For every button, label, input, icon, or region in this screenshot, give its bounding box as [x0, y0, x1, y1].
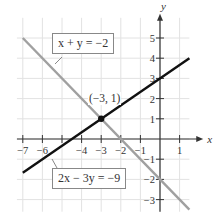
x-tick-label: −3 [96, 145, 107, 156]
y-tick-label: 4 [150, 53, 156, 64]
equation-2-pointer [52, 159, 57, 168]
x-tick-label: −2 [115, 145, 126, 156]
y-tick-label: −3 [144, 195, 155, 206]
x-tick-label: −6 [37, 145, 48, 156]
x-tick-label: 1 [177, 145, 182, 156]
equation-label-1: x + y = −2 [52, 33, 114, 54]
y-tick-label: 1 [150, 114, 155, 125]
equation-label-2: 2x − 3y = −9 [52, 168, 126, 189]
y-tick-label: −2 [144, 174, 155, 185]
y-tick-label: 5 [150, 33, 155, 44]
intersection-label: (−3, 1) [88, 92, 121, 105]
x-axis-label: x [206, 133, 212, 145]
x-axis-arrow-icon [196, 136, 203, 142]
y-axis-label: y [160, 0, 166, 12]
intersection-point [98, 116, 104, 122]
x-tick-label: −4 [76, 145, 88, 156]
y-tick-label: 2 [150, 94, 155, 105]
y-axis-arrow-icon [157, 14, 163, 21]
x-tick-label: −7 [17, 145, 28, 156]
